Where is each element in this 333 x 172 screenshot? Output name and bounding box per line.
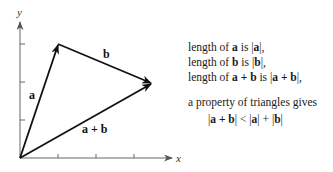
text-triangle-property: a property of triangles gives <box>188 95 317 110</box>
x-axis-label: x <box>175 152 181 164</box>
label-b: b <box>103 47 110 61</box>
y-ticks <box>20 44 25 120</box>
text-length-a: length of a is |a|, <box>188 40 265 55</box>
vector-triangle-diagram: x y a b a + b <box>0 0 190 172</box>
y-axis-label: y <box>16 6 22 18</box>
label-a: a <box>29 88 35 102</box>
text-length-b: length of b is |b|, <box>188 55 266 70</box>
text-length-a-plus-b: length of a + b is |a + b|, <box>188 70 302 85</box>
x-ticks <box>58 154 134 158</box>
text-triangle-inequality: |a + b| < |a| + |b| <box>208 112 283 127</box>
vector-a <box>20 45 58 158</box>
label-a-plus-b: a + b <box>82 122 108 136</box>
vector-a-plus-b <box>20 84 151 158</box>
